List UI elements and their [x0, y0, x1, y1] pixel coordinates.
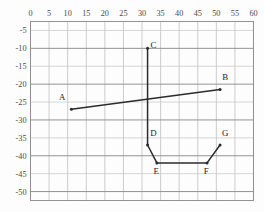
data-point-marker	[70, 108, 73, 111]
point-label-b: B	[222, 72, 228, 82]
x-axis-tick-labels: 051015202530354045505560	[28, 9, 257, 18]
x-tick-label: 0	[28, 9, 32, 18]
chart-figure: 051015202530354045505560 -5-10-15-20-25-…	[0, 0, 264, 212]
data-point-marker	[219, 88, 222, 91]
data-point-marker	[146, 144, 149, 147]
data-point-marker	[219, 144, 222, 147]
y-tick-label: -50	[16, 188, 27, 197]
y-tick-label: -15	[16, 62, 27, 71]
y-tick-label: -5	[20, 26, 27, 35]
y-tick-label: -25	[16, 98, 27, 107]
y-tick-label: -40	[16, 152, 27, 161]
y-axis-tick-labels: -5-10-15-20-25-30-35-40-45-50	[16, 26, 27, 196]
data-point-marker	[155, 161, 158, 164]
x-tick-label: 5	[47, 9, 51, 18]
x-tick-label: 30	[138, 9, 146, 18]
series-line	[148, 48, 220, 163]
y-tick-label: -10	[16, 44, 27, 53]
y-tick-label: -30	[16, 116, 27, 125]
grid-lines	[31, 22, 254, 201]
chart-plot-area: 051015202530354045505560 -5-10-15-20-25-…	[0, 0, 264, 212]
x-tick-label: 60	[249, 9, 257, 18]
y-tick-label: -45	[16, 170, 27, 179]
x-tick-label: 10	[64, 9, 72, 18]
data-point-marker	[206, 161, 209, 164]
x-tick-label: 55	[231, 9, 239, 18]
y-tick-label: -35	[16, 134, 27, 143]
point-label-e: E	[153, 166, 158, 176]
data-point-markers	[70, 47, 222, 165]
point-label-d: D	[150, 128, 156, 138]
x-tick-label: 40	[175, 9, 183, 18]
x-tick-label: 50	[212, 9, 220, 18]
point-label-f: F	[204, 166, 209, 176]
point-label-a: A	[59, 92, 66, 102]
point-label-c: C	[151, 40, 157, 50]
x-tick-label: 35	[156, 9, 164, 18]
data-point-marker	[146, 47, 149, 50]
point-label-g: G	[222, 128, 229, 138]
x-tick-label: 20	[101, 9, 109, 18]
x-tick-label: 25	[119, 9, 127, 18]
x-tick-label: 45	[194, 9, 202, 18]
y-tick-label: -20	[16, 80, 27, 89]
x-tick-label: 15	[82, 9, 90, 18]
